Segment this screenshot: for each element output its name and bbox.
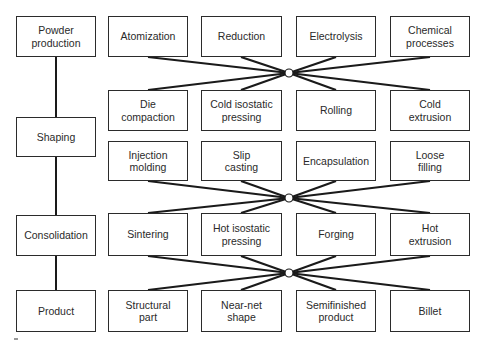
- method-loose-filling: Loose filling: [390, 141, 470, 181]
- method-encapsulation: Encapsulation: [296, 141, 376, 181]
- method-die-compaction: Die compaction: [108, 90, 188, 131]
- stage-shaping: Shaping: [16, 117, 96, 157]
- stage-product: Product: [16, 290, 96, 332]
- method-electrolysis: Electrolysis: [296, 16, 376, 57]
- method-reduction: Reduction: [201, 16, 282, 57]
- stage-consolidation: Consolidation: [16, 215, 96, 256]
- product-near-net-shape: Near-net shape: [201, 290, 282, 332]
- stage-powder-production: Powder production: [16, 16, 96, 57]
- method-hot-extrusion: Hot extrusion: [390, 213, 470, 256]
- method-rolling: Rolling: [296, 90, 376, 131]
- method-forging: Forging: [296, 213, 376, 256]
- product-semifinished-product: Semifinished product: [296, 290, 376, 332]
- method-cold-extrusion: Cold extrusion: [390, 90, 470, 131]
- method-chemical-processes: Chemical processes: [390, 16, 470, 57]
- hub-node-2: [285, 194, 293, 202]
- method-hot-isostatic-pressing: Hot isostatic pressing: [201, 213, 282, 256]
- hub-node-1: [285, 69, 293, 77]
- product-billet: Billet: [390, 290, 470, 332]
- corner-mark: [14, 338, 18, 340]
- hub-node-3: [285, 269, 293, 277]
- method-injection-molding: Injection molding: [108, 141, 188, 181]
- product-structural-part: Structural part: [108, 290, 188, 332]
- method-atomization: Atomization: [108, 16, 188, 57]
- method-slip-casting: Slip casting: [201, 141, 282, 181]
- method-cold-isostatic-pressing: Cold isostatic pressing: [201, 90, 282, 131]
- method-sintering: Sintering: [108, 213, 188, 256]
